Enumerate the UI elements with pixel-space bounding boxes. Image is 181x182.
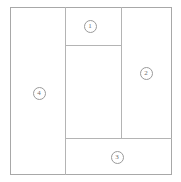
region-label-1: 1 [84, 20, 97, 33]
region-center-area[interactable] [66, 46, 121, 138]
diagram-canvas: 1 2 3 4 [0, 0, 181, 182]
region-label-2: 2 [140, 67, 153, 80]
region-label-4: 4 [33, 87, 46, 100]
region-label-3: 3 [111, 151, 124, 164]
